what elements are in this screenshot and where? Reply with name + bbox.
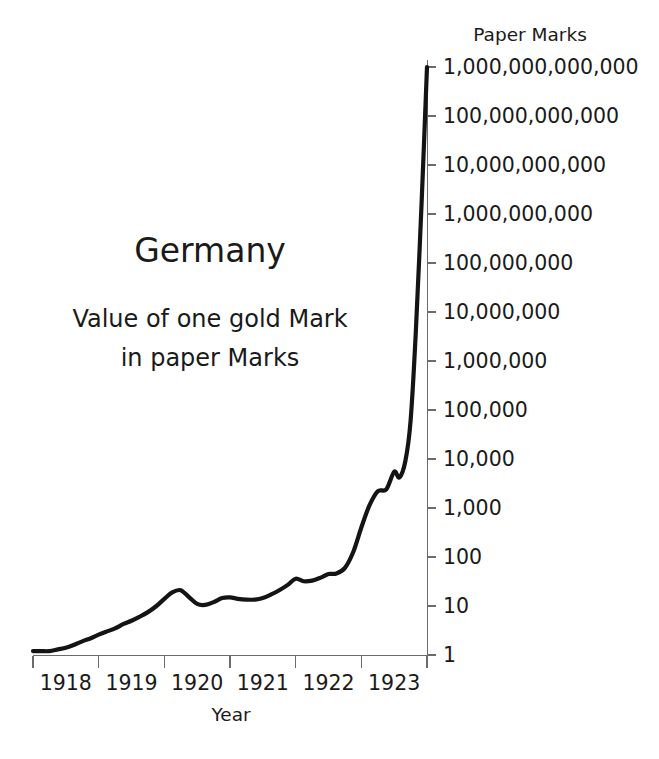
y-axis-tick-label: 1 bbox=[443, 643, 456, 667]
x-axis-tick-label: 1920 bbox=[171, 671, 223, 695]
y-axis-tick-label: 100,000,000 bbox=[443, 251, 573, 275]
chart-subtitle-line-1: Value of one gold Mark bbox=[72, 305, 347, 333]
y-axis-tick-label: 1,000,000,000,000 bbox=[443, 55, 639, 79]
value-axis-unit-header: Paper Marks bbox=[473, 24, 587, 45]
x-axis-tick-label: 1918 bbox=[40, 671, 92, 695]
x-axis-tick-label: 1923 bbox=[368, 671, 420, 695]
chart-title: Germany bbox=[134, 231, 286, 270]
x-axis-tick-label: 1919 bbox=[105, 671, 157, 695]
x-axis-title: Year bbox=[210, 704, 251, 725]
y-axis-tick-label: 10,000,000 bbox=[443, 300, 560, 324]
y-axis-tick-label: 100 bbox=[443, 545, 482, 569]
x-axis-tick-label: 1921 bbox=[237, 671, 289, 695]
y-axis-tick-label: 1,000 bbox=[443, 496, 502, 520]
x-axis-tick-label: 1922 bbox=[302, 671, 354, 695]
y-axis-tick-label: 10,000,000,000 bbox=[443, 153, 606, 177]
y-axis-tick-label: 1,000,000 bbox=[443, 349, 547, 373]
y-axis-tick-label: 100,000 bbox=[443, 398, 528, 422]
y-axis-tick-label: 10,000 bbox=[443, 447, 515, 471]
y-axis-tick-label: 100,000,000,000 bbox=[443, 104, 619, 128]
chart-subtitle-line-2: in paper Marks bbox=[121, 344, 300, 372]
y-axis-tick-label: 1,000,000,000 bbox=[443, 202, 593, 226]
inflation-line-chart: Paper Marks Germany Value of one gold Ma… bbox=[0, 0, 659, 759]
y-axis-tick-label: 10 bbox=[443, 594, 469, 618]
